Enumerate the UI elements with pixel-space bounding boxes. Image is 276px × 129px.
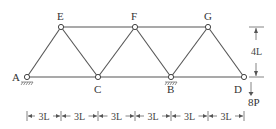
load-label: 8P — [248, 96, 260, 108]
node-E — [58, 24, 63, 29]
load-arrow-icon — [249, 82, 254, 96]
node-label-C: C — [94, 83, 101, 95]
pin-support-icon — [21, 82, 33, 85]
dimension-label: 3L — [184, 111, 195, 122]
dimension-label: 3L — [111, 111, 122, 122]
member-GD — [208, 27, 244, 77]
node-label-F: F — [131, 10, 137, 22]
vertical-dimension-label: 4L — [251, 46, 262, 57]
node-C — [95, 74, 100, 79]
node-D — [241, 74, 246, 79]
node-A — [24, 74, 29, 79]
horizontal-dimensions: 3L3L3L3L3L3L — [27, 111, 244, 122]
node-B — [168, 74, 173, 79]
member-FB — [135, 27, 171, 77]
member-CF — [98, 27, 135, 77]
dimension-label: 3L — [38, 111, 49, 122]
truss-members — [27, 27, 244, 77]
node-labels: AECFBGD — [12, 10, 242, 95]
member-BG — [171, 27, 208, 77]
member-AE — [27, 27, 61, 77]
node-label-E: E — [57, 10, 64, 22]
node-F — [132, 24, 137, 29]
dimension-label: 3L — [220, 111, 231, 122]
node-label-D: D — [234, 83, 242, 95]
dimension-label: 3L — [74, 111, 85, 122]
node-label-G: G — [204, 10, 212, 22]
node-label-B: B — [167, 83, 174, 95]
dimension-label: 3L — [147, 111, 158, 122]
node-G — [205, 24, 210, 29]
truss-diagram: AECFBGD 8P 4L 3L3L3L3L3L3L — [0, 0, 276, 129]
node-label-A: A — [12, 71, 20, 83]
member-EC — [61, 27, 98, 77]
